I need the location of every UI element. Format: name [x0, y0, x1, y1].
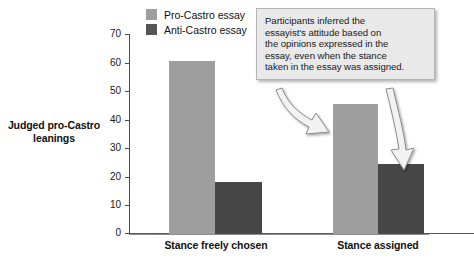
legend-swatch-icon-anti-castro [146, 24, 157, 35]
legend-item-pro-castro-essay: Pro-Castro essay [146, 7, 247, 22]
annotation-line-4: essay, even when the stance [265, 50, 427, 62]
annotation-line-2: essayist's attitude based on [265, 27, 427, 39]
bar-stance-freely-chosen-anti-castro [215, 182, 262, 234]
category-label-stance-assigned: Stance assigned [318, 239, 438, 251]
annotation-line-1: Participants inferred the [265, 15, 427, 27]
bar-chart-figure: Judged pro-Castro leanings 70 60 50 40 3… [0, 0, 474, 262]
legend-swatch-icon-pro-castro [146, 9, 157, 20]
legend-label-anti-castro: Anti-Castro essay [164, 24, 247, 36]
legend-label-pro-castro: Pro-Castro essay [164, 9, 245, 21]
annotation-callout: Participants inferred the essayist's att… [256, 8, 435, 80]
bar-stance-freely-chosen-pro-castro [169, 61, 215, 234]
category-label-stance-freely-chosen: Stance freely chosen [146, 239, 286, 251]
legend: Pro-Castro essay Anti-Castro essay [146, 7, 247, 37]
bar-stance-assigned-anti-castro [378, 164, 424, 234]
legend-item-anti-castro-essay: Anti-Castro essay [146, 22, 247, 37]
annotation-line-3: the opinions expressed in the [265, 38, 427, 50]
annotation-line-5: taken in the essay was assigned. [265, 61, 427, 73]
bar-stance-assigned-pro-castro [333, 104, 378, 234]
